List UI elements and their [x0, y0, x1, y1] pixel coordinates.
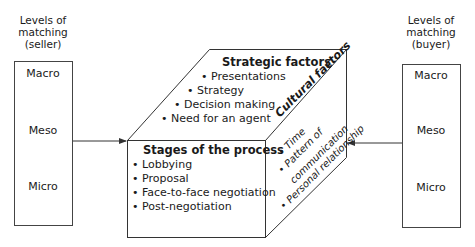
strategic-item: • Decision making [174, 98, 275, 112]
stage-item: • Lobbying [132, 158, 192, 172]
stages-title: Stages of the process [143, 143, 284, 157]
seller-level-meso: Meso [14, 124, 72, 137]
buyer-caption: Levels of matching (buyer) [391, 14, 471, 50]
seller-box [15, 62, 73, 226]
stage-item: • Post-negotiation [132, 200, 232, 214]
buyer-level-macro: Macro [402, 69, 460, 82]
stage-item: • Proposal [132, 172, 189, 186]
seller-caption: Levels of matching (seller) [3, 14, 83, 50]
buyer-level-meso: Meso [402, 124, 460, 137]
strategic-item: • Need for an agent [161, 112, 271, 126]
buyer-level-micro: Micro [402, 181, 460, 194]
seller-level-macro: Macro [14, 67, 72, 80]
strategic-item: • Strategy [187, 84, 244, 98]
strategic-item: • Presentations [201, 70, 286, 84]
seller-level-micro: Micro [14, 180, 72, 193]
stage-item: • Face-to-face negotiation [132, 186, 276, 200]
buyer-box [403, 65, 461, 228]
